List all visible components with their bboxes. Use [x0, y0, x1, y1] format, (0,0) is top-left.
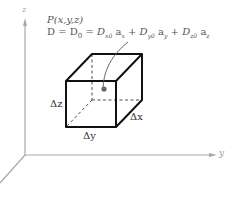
equation-term-x: Dx0 ax: [97, 26, 125, 37]
delta-z-label: Δz: [50, 98, 63, 109]
cube-top-face: [66, 54, 142, 81]
equation-term-y: Dy0 ay: [140, 26, 168, 37]
y-axis-label: y: [219, 148, 224, 158]
equation-term-z: Dz0 az: [182, 26, 209, 37]
axes: [0, 22, 212, 183]
point-label: P(x,y,z): [47, 14, 83, 25]
equation-lhs: D: [47, 26, 55, 37]
y-axis-arrowhead-icon: [209, 153, 217, 157]
z-axis-label: z: [22, 5, 26, 14]
delta-x-label: Δx: [130, 111, 143, 122]
equation-equals-2: =: [85, 26, 93, 37]
delta-y-label: Δy: [83, 130, 96, 141]
equation-plus-1: +: [128, 26, 136, 37]
equation-equals-1: =: [58, 26, 66, 37]
equation-plus-2: +: [171, 26, 179, 37]
point-p-marker: [101, 86, 106, 91]
equation-d0: D0: [70, 26, 83, 37]
diagram-canvas: z y P(x,y,z) D = D0 = Dx0 ax + Dy0 ay + …: [0, 0, 240, 205]
equation: D = D0 = Dx0 ax + Dy0 ay + Dz0 az: [47, 26, 210, 40]
cube-front-face: [66, 81, 116, 127]
x-axis: [0, 155, 25, 183]
z-axis-arrowhead-icon: [23, 18, 27, 26]
